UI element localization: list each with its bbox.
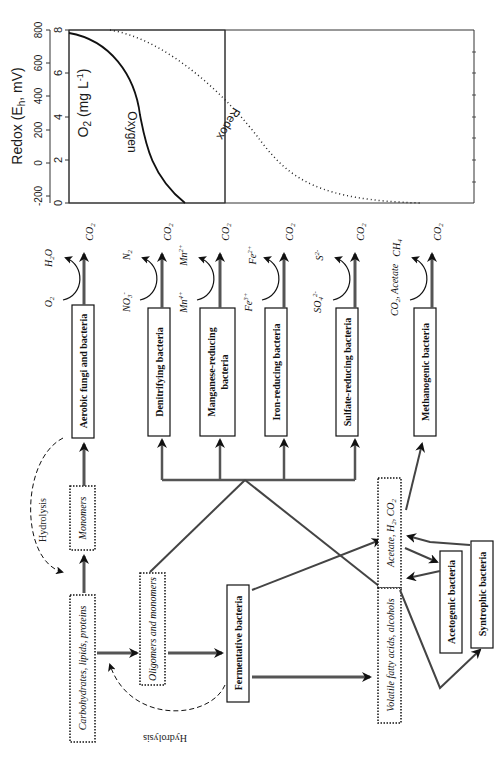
hydrolysis-label-bottom: Hydrolysis — [143, 733, 187, 744]
svg-text:Carbohydrates, lipids, protein: Carbohydrates, lipids, proteins — [77, 606, 88, 731]
svg-text:Denitrifying bacteria: Denitrifying bacteria — [154, 327, 165, 417]
svg-text:-200: -200 — [33, 186, 44, 206]
svg-text:CO2: CO2 — [220, 223, 233, 241]
svg-text:2: 2 — [52, 157, 64, 163]
aerobic-out: H2O — [43, 249, 56, 268]
o2-axis-title: O2 (mg L-1) — [75, 69, 93, 138]
svg-text:Iron-reducing bacteria: Iron-reducing bacteria — [271, 323, 282, 420]
box-denitrifying: Denitrifying bacteria — [148, 308, 170, 436]
pool-oligomers: Oligomers and monomers — [140, 573, 165, 685]
pool-carbohydrates: Carbohydrates, lipids, proteins — [70, 595, 95, 742]
box-aerobic: Aerobic fungi and bacteria — [72, 305, 94, 438]
svg-text:8: 8 — [52, 27, 64, 33]
svg-text:200: 200 — [33, 121, 44, 138]
svg-text:400: 400 — [33, 87, 44, 104]
svg-text:Manganese-reducing: Manganese-reducing — [206, 327, 217, 416]
hydrolysis-label-top: Hydrolysis — [37, 498, 48, 542]
pool-vfa: Volatile fatty acids, alcohols — [378, 588, 401, 723]
arrow-fermentative-acetate — [252, 540, 380, 590]
redox-axis-title: Redox (Eh, mV) — [9, 67, 27, 164]
svg-text:Sulfate-reducing bacteria: Sulfate-reducing bacteria — [342, 318, 353, 426]
hydrolysis-arc-bottom — [110, 665, 225, 711]
svg-text:0: 0 — [33, 160, 44, 166]
svg-text:Oligomers and monomers: Oligomers and monomers — [147, 577, 158, 681]
svg-text:Methanogenic bacteria: Methanogenic bacteria — [420, 323, 431, 421]
svg-text:Syntrophic bacteria: Syntrophic bacteria — [477, 552, 488, 637]
redox-oxygen-plot: 0 2 4 6 8 -200 0 200 400 600 800 Redox (… — [9, 21, 476, 206]
svg-text:600: 600 — [33, 54, 44, 71]
svg-text:CO2: CO2 — [162, 223, 175, 241]
aerobic-in: O2 — [43, 296, 56, 307]
iron-out: Fe2+ — [246, 245, 258, 265]
manganese-out: Mn2+ — [177, 244, 189, 267]
svg-text:Fermentative bacteria: Fermentative bacteria — [233, 596, 244, 691]
pool-monomers: Monomers — [70, 486, 95, 550]
box-sulfate: Sulfate-reducing bacteria — [336, 308, 358, 436]
methanogenic-in: CO2, Acetate — [389, 263, 402, 316]
terminal-boxes: Aerobic fungi and bacteria Denitrifying … — [72, 305, 436, 438]
svg-text:bacteria: bacteria — [219, 355, 230, 390]
box-methanogenic: Methanogenic bacteria — [414, 308, 436, 436]
redox-tick-labels: -200 0 200 400 600 800 — [33, 21, 44, 206]
svg-text:800: 800 — [33, 21, 44, 38]
svg-text:CO2: CO2 — [355, 223, 368, 241]
svg-text:0: 0 — [52, 200, 64, 206]
sulfate-out: S2- — [313, 249, 325, 261]
redox-axis — [46, 30, 50, 203]
denitrifying-in: NO3- — [120, 291, 134, 312]
diag-vfa — [245, 480, 384, 590]
diag-oligomers — [150, 480, 245, 572]
box-acetogenic: Acetogenic bacteria — [440, 551, 462, 653]
plot-frame-full — [69, 30, 225, 203]
svg-text:4: 4 — [52, 114, 64, 120]
svg-text:Monomers: Monomers — [77, 497, 88, 541]
arrow-acetate-methanogenic — [406, 444, 422, 510]
o2-axis — [65, 30, 69, 203]
svg-text:Volatile fatty acids, alcohols: Volatile fatty acids, alcohols — [385, 598, 396, 711]
redox-curve-label: Redox — [214, 105, 243, 142]
svg-text:Aerobic fungi and bacteria: Aerobic fungi and bacteria — [78, 314, 89, 429]
pool-acetate: Acetate, H2, CO2 — [378, 478, 401, 588]
sulfate-in: SO42- — [311, 291, 325, 313]
box-fermentative: Fermentative bacteria — [227, 585, 249, 702]
methanogenic-out: CH4 — [391, 239, 404, 257]
svg-text:CO2: CO2 — [284, 223, 297, 241]
iron-in: Fe3+ — [242, 292, 254, 312]
box-syntrophic: Syntrophic bacteria — [471, 541, 493, 648]
svg-text:6: 6 — [52, 70, 64, 76]
co2-labels: CO2 CO2 CO2 CO2 CO2 CO2 — [84, 223, 445, 241]
manganese-in: Mn4+ — [177, 291, 189, 314]
svg-text:CO2: CO2 — [432, 223, 445, 241]
oxygen-curve-label: Oxygen — [125, 111, 139, 152]
figure-canvas: 0 2 4 6 8 -200 0 200 400 600 800 Redox (… — [0, 0, 499, 759]
co2-arrows — [84, 254, 432, 308]
svg-text:CO2: CO2 — [84, 223, 97, 241]
box-manganese: Manganese-reducing bacteria — [200, 308, 235, 436]
denitrifying-out: N2 — [121, 249, 134, 261]
o2-tick-labels: 0 2 4 6 8 — [52, 27, 64, 206]
redox-curve — [110, 30, 420, 203]
plot-frame — [69, 30, 225, 203]
distribution-bus — [162, 440, 355, 480]
hub-diagonals — [150, 480, 384, 590]
box-iron: Iron-reducing bacteria — [265, 308, 287, 436]
svg-text:Acetogenic bacteria: Acetogenic bacteria — [446, 560, 457, 644]
